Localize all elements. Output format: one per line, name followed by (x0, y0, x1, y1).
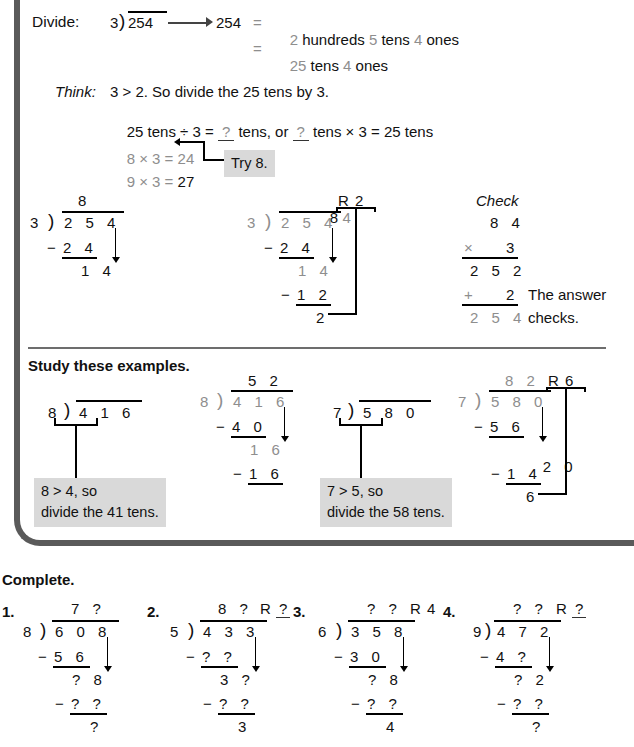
intro-arrow-head-icon (206, 17, 213, 27)
example-b-quotient: 5 2 (248, 372, 282, 389)
exercise-2-subtrahend-2[interactable]: ? ? (219, 695, 253, 712)
exercise-1-quotient[interactable]: 7 ? (71, 600, 105, 617)
example-b-overbar (231, 390, 293, 392)
check-add-rule (462, 304, 518, 306)
exercise-4-subtract1-sign: − (480, 648, 489, 665)
exercise-3-remainder-label: R (410, 600, 421, 617)
check-title: Check (476, 192, 519, 209)
example-b-divisor: 8 (200, 393, 208, 410)
example-a-callout: 8 > 4, sodivide the 41 tens. (34, 478, 166, 527)
step2-subtract2-sign: − (281, 286, 290, 303)
example-b-subtract2-sign: − (233, 465, 242, 482)
exercise-3-difference-2[interactable]: 4 (386, 718, 394, 735)
step1-division-bracket-icon: ) (48, 211, 54, 230)
divide-label: Divide: (32, 13, 79, 31)
exercise-3-remainder-value[interactable]: 4 (427, 600, 435, 617)
exercise-4-division-bracket-icon: ) (485, 620, 491, 639)
think-line2-b: tens, or (234, 123, 292, 140)
exercise-3-dividend: 3 5 8 (351, 623, 407, 640)
try8-connector-top (180, 141, 205, 143)
exercise-2-dividend: 4 3 3 (203, 623, 259, 640)
exercise-3-subtrahend-2[interactable]: ? ? (367, 695, 401, 712)
example-d-subtract1-rule (489, 436, 524, 438)
exercise-1-subtrahend-2[interactable]: ? ? (71, 695, 105, 712)
exercise-1-dividend: 6 0 8 (55, 623, 111, 640)
exercise-2-division-bracket-icon: ) (188, 620, 194, 639)
intro-eq2-ones-word: ones (356, 57, 389, 74)
example-a-overbar (76, 400, 142, 402)
example-d-difference-1-value: 2 0 (543, 458, 577, 475)
example-d-dividend: 5 8 0 (491, 393, 547, 410)
intro-divisor: 3 (110, 14, 118, 31)
example-a-division-bracket-icon: ) (64, 400, 70, 419)
exercise-3-divisor: 6 (318, 623, 326, 640)
exercise-1-difference-1[interactable]: ? 8 (72, 671, 106, 688)
exercise-4-overbar (494, 620, 561, 622)
exercise-3-quotient[interactable]: ? ? (367, 600, 401, 617)
exercise-4-subtract2-rule (512, 713, 549, 715)
intro-arrow-target: 254 (216, 14, 241, 31)
exercise-4-subtrahend-2[interactable]: ? ? (513, 695, 547, 712)
exercise-4-subtract2-sign: − (497, 695, 506, 712)
step2-difference-1: 1 4 (298, 262, 332, 279)
exercise-2-subtrahend-1[interactable]: ? ? (202, 648, 236, 665)
try8-callout: Try 8. (224, 150, 275, 177)
example-b-difference-1: 1 6 (250, 441, 284, 458)
exercise-2-remainder-value[interactable]: ? (276, 600, 290, 618)
exercise-4-difference-1[interactable]: ? 2 (514, 671, 548, 688)
intro-eq2-tens-word: tens (311, 57, 339, 74)
exercise-4-remainder-value[interactable]: ? (572, 600, 586, 618)
exercise-2-difference-1[interactable]: 3 ? (220, 671, 254, 688)
exercise-1-overbar (52, 620, 119, 622)
exercise-4-dividend: 4 7 2 (497, 623, 553, 640)
step1-subtrahend: 2 4 (63, 239, 97, 256)
check-note-line-2: checks. (528, 309, 579, 326)
exercise-4-subtrahend-1[interactable]: 4 ? (496, 648, 530, 665)
check-note-line-1: The answer (528, 286, 606, 303)
exercise-2-quotient[interactable]: 8 ? (218, 600, 252, 617)
exercise-4-quotient[interactable]: ? ? (513, 600, 547, 617)
step1-quotient: 8 (78, 192, 91, 209)
example-b-subtrahend-1: 4 0 (232, 418, 266, 435)
example-d-subtract2-rule (506, 483, 541, 485)
step2-subtrahend-2: 1 2 (297, 286, 331, 303)
example-b-dividend: 4 1 6 (233, 393, 289, 410)
exercise-3-difference-1[interactable]: ? 8 (368, 671, 402, 688)
exercise-1-subtrahend-1[interactable]: 5 6 (54, 648, 88, 665)
think-line2-c: tens × 3 = 25 tens (309, 123, 433, 140)
example-a-callout-line-2: divide the 41 tens. (41, 504, 159, 520)
exercise-2-subtract2-rule (218, 713, 255, 715)
example-b-division-bracket-icon: ) (217, 390, 223, 409)
exercise-4-difference-2[interactable]: ? (532, 718, 540, 735)
examples-heading: Study these examples. (28, 357, 190, 374)
exercise-2-subtract1-rule (201, 666, 238, 668)
think-blank-1: ? (218, 123, 234, 141)
exercise-2-divisor: 5 (170, 623, 178, 640)
think-line-1: 3 > 2. So divide the 25 tens by 3. (110, 83, 329, 100)
exercise-1-difference-2[interactable]: ? (90, 718, 98, 735)
exercise-1-subtract1-rule (53, 666, 90, 668)
exercise-3-number: 3. (293, 603, 306, 620)
try8-connector-drop (203, 141, 205, 160)
exercise-3-overbar (348, 620, 415, 622)
exercise-3-subtract2-rule (366, 713, 403, 715)
exercise-1-subtract2-sign: − (55, 695, 64, 712)
exercise-2-number: 2. (147, 603, 160, 620)
example-d-divisor: 7 (458, 393, 466, 410)
intro-eq2-tens-digit: 25 (290, 57, 307, 74)
example-c-callout: 7 > 5, sodivide the 58 tens. (320, 478, 452, 527)
step2-divisor: 3 (247, 214, 255, 231)
exercise-2-subtract2-sign: − (203, 695, 212, 712)
step2-dividend: 2 5 4 (281, 214, 337, 231)
exercise-2-remainder-label: R (260, 600, 271, 617)
check-product: 2 5 2 (470, 262, 526, 279)
exercise-3-subtract1-sign: − (334, 648, 343, 665)
step2-subtrahend-1: 2 4 (280, 239, 314, 256)
intro-eq1-ones-word: ones (426, 31, 459, 48)
exercise-1-division-bracket-icon: ) (40, 620, 46, 639)
intro-eq2-sign: = (253, 40, 262, 57)
example-d-quotient: 8 2 (505, 372, 539, 389)
check-multiply-sign: × (464, 239, 473, 256)
exercise-2-difference-2[interactable]: 3 (238, 718, 246, 735)
